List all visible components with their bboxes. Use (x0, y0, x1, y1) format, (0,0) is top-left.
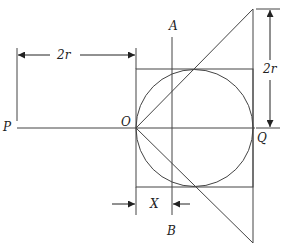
label-dim-vertical: 2r (263, 63, 276, 75)
label-p: P (3, 121, 11, 133)
geometry-diagram (0, 0, 286, 246)
label-o: O (121, 116, 131, 128)
diagonal-lower (136, 128, 253, 243)
label-a: A (169, 20, 178, 32)
label-b: B (167, 225, 176, 237)
label-dim-horizontal: 2r (57, 49, 70, 61)
label-q: Q (257, 132, 267, 144)
label-x: X (150, 198, 159, 210)
